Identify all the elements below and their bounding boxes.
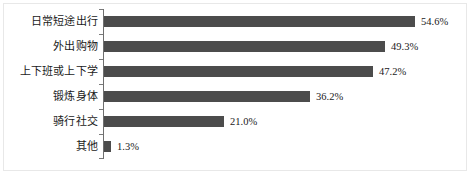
value-label: 21.0% (230, 109, 257, 134)
axis-tick (99, 134, 103, 135)
bar-track: 21.0% (104, 109, 472, 134)
bar-row: 锻炼身体 36.2% (0, 84, 472, 109)
bar-segment (104, 91, 310, 102)
bar-track: 47.2% (104, 59, 472, 84)
category-label: 日常短途出行 (31, 9, 98, 34)
value-label: 36.2% (316, 84, 343, 109)
value-label: 49.3% (391, 34, 418, 59)
axis-tick (99, 158, 103, 159)
value-label: 1.3% (117, 134, 139, 159)
bar-segment (104, 16, 415, 27)
axis-tick (99, 59, 103, 60)
bar-row: 日常短途出行 54.6% (0, 9, 472, 34)
category-label: 锻炼身体 (53, 84, 98, 109)
bar-row: 外出购物 49.3% (0, 34, 472, 59)
bar-track: 49.3% (104, 34, 472, 59)
bar-segment (104, 116, 224, 127)
bar-track: 1.3% (104, 134, 472, 159)
value-label: 47.2% (379, 59, 406, 84)
axis-tick (99, 34, 103, 35)
bar-segment (104, 141, 111, 152)
category-label: 骑行社交 (53, 109, 98, 134)
axis-tick (99, 84, 103, 85)
axis-tick (99, 109, 103, 110)
bar-chart: 日常短途出行 54.6% 外出购物 49.3% 上下班或上下学 (0, 0, 472, 176)
bar-row: 其他 1.3% (0, 134, 472, 159)
bar-track: 36.2% (104, 84, 472, 109)
axis-tick (99, 9, 103, 10)
plot-area: 日常短途出行 54.6% 外出购物 49.3% 上下班或上下学 (0, 0, 472, 176)
bar-rows: 日常短途出行 54.6% 外出购物 49.3% 上下班或上下学 (0, 9, 472, 159)
category-label: 外出购物 (53, 34, 98, 59)
bar-row: 骑行社交 21.0% (0, 109, 472, 134)
category-label: 上下班或上下学 (20, 59, 98, 84)
bar-track: 54.6% (104, 9, 472, 34)
bar-segment (104, 41, 385, 52)
bar-segment (104, 66, 373, 77)
value-label: 54.6% (421, 9, 448, 34)
bar-row: 上下班或上下学 47.2% (0, 59, 472, 84)
category-label: 其他 (76, 134, 98, 159)
